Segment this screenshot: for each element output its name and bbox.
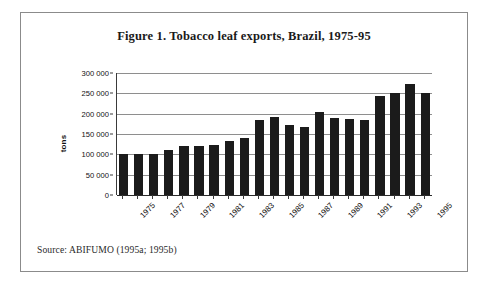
y-axis-tick-label: 100 000 — [57, 150, 109, 159]
bar-1976 — [134, 154, 143, 195]
x-axis-tick-mark — [394, 195, 395, 199]
x-axis-tick-mark — [363, 195, 364, 199]
bar-1975 — [119, 154, 128, 195]
figure-title: Figure 1. Tobacco leaf exports, Brazil, … — [21, 29, 467, 44]
bar-1984 — [255, 120, 264, 195]
x-axis-tick-labels: 1975197719791981198319851987198919911993… — [116, 201, 431, 241]
y-axis-tick-mark — [110, 134, 113, 135]
y-axis-tick-label: 200 000 — [57, 109, 109, 118]
x-axis-tick-mark — [228, 195, 229, 199]
x-axis-tick-mark — [424, 195, 425, 199]
y-axis-tick-mark — [110, 174, 113, 175]
bar-1988 — [315, 112, 324, 195]
x-axis-tick-mark — [333, 195, 334, 199]
x-axis-tick-mark — [167, 195, 168, 199]
x-axis-tick-mark — [288, 195, 289, 199]
x-axis-tick-mark — [318, 195, 319, 199]
figure-frame: Figure 1. Tobacco leaf exports, Brazil, … — [20, 12, 468, 272]
bar-1991 — [360, 120, 369, 195]
x-axis-tick-label-1977: 1977 — [168, 201, 187, 220]
x-axis-tick-label-1995: 1995 — [435, 201, 454, 220]
bar-1993 — [390, 93, 399, 195]
bar-1979 — [179, 146, 188, 195]
y-axis-tick-label: 0 — [57, 191, 109, 200]
bar-1994 — [405, 84, 414, 195]
bar-1992 — [375, 96, 384, 195]
x-axis-tick-label-1975: 1975 — [139, 201, 158, 220]
bar-1986 — [285, 125, 294, 195]
x-axis-tick-label-1989: 1989 — [346, 201, 365, 220]
x-axis-tick-mark — [152, 195, 153, 199]
bar-1980 — [194, 146, 203, 195]
x-axis-tick-mark — [258, 195, 259, 199]
x-axis-tick-label-1991: 1991 — [376, 201, 395, 220]
y-axis-tick-mark — [110, 154, 113, 155]
bar-1985 — [270, 117, 279, 195]
y-axis-tick-label: 150 000 — [57, 130, 109, 139]
plot-area — [116, 73, 432, 195]
y-axis-tick-mark — [110, 73, 113, 74]
bar-1983 — [240, 138, 249, 195]
x-axis-tick-mark — [303, 195, 304, 199]
x-axis-tick-label-1987: 1987 — [316, 201, 335, 220]
x-axis-tick-mark — [273, 195, 274, 199]
source-note: Source: ABIFUMO (1995a; 1995b) — [37, 244, 177, 255]
y-axis-tick-labels: 050 000100 000150 000200 000250 000300 0… — [61, 73, 113, 195]
bar-1977 — [149, 154, 158, 195]
y-axis-tick-label: 50 000 — [57, 170, 109, 179]
x-axis-tick-label-1983: 1983 — [257, 201, 276, 220]
bar-1990 — [345, 119, 354, 195]
x-axis-tick-mark — [348, 195, 349, 199]
bar-1981 — [209, 145, 218, 195]
bar-1989 — [330, 118, 339, 195]
chart-plot-wrapper: tons 050 000100 000150 000200 000250 000… — [21, 63, 469, 223]
y-axis-tick-mark — [110, 113, 113, 114]
y-axis-tick-label: 300 000 — [57, 69, 109, 78]
x-axis-tick-mark — [409, 195, 410, 199]
y-axis-tick-mark — [110, 93, 113, 94]
x-axis-tick-label-1985: 1985 — [287, 201, 306, 220]
bar-series — [117, 73, 432, 195]
x-axis-tick-mark — [213, 195, 214, 199]
x-axis-tick-mark — [137, 195, 138, 199]
x-axis-tick-mark — [182, 195, 183, 199]
x-axis-tick-label-1993: 1993 — [405, 201, 424, 220]
bar-1978 — [164, 150, 173, 195]
bar-1982 — [225, 141, 234, 195]
y-axis-tick-mark — [110, 195, 113, 196]
bar-1987 — [300, 127, 309, 195]
y-axis-tick-label: 250 000 — [57, 89, 109, 98]
x-axis-tick-mark — [378, 195, 379, 199]
x-axis-tick-mark — [122, 195, 123, 199]
x-axis-tick-label-1981: 1981 — [227, 201, 246, 220]
x-axis-tick-mark — [243, 195, 244, 199]
x-axis-tick-mark — [197, 195, 198, 199]
bar-1995 — [421, 93, 430, 195]
x-axis-tick-label-1979: 1979 — [198, 201, 217, 220]
